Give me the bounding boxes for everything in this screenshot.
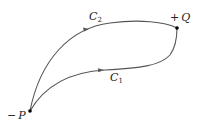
label-c1: C1 [110,71,123,85]
label-p: −P [7,109,26,122]
point-p [28,109,32,113]
point-q [175,26,179,30]
curve-c1 [30,28,177,111]
curve-c2 [30,21,177,111]
label-c2: C2 [89,10,102,24]
path-diagram: C2 C1 +Q −P [0,0,198,129]
arrow-c1-icon [98,68,104,72]
label-q: +Q [170,11,190,24]
arrow-c2-icon [83,28,89,32]
